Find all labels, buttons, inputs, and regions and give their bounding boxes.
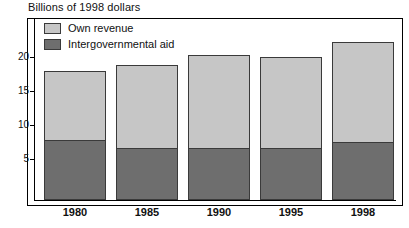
y-tick-label-15: 15 [7,86,29,96]
bar-1985 [116,65,178,200]
chart-legend: Own revenue Intergovernmental aid [44,21,174,53]
bar-1998-own-revenue [333,43,393,143]
bar-1980 [44,71,106,200]
x-axis-line [34,200,396,201]
x-tick-label-1995: 1995 [256,206,326,218]
bar-1990-own-revenue [189,56,249,149]
y-tick-label-20: 20 [7,52,29,62]
x-tick-label-1998: 1998 [328,206,398,218]
y-tick-20 [30,57,35,58]
y-tick-label-10: 10 [7,120,29,130]
bar-1990-intergovernmental-aid [189,148,249,199]
x-tick-label-1980: 1980 [40,206,110,218]
y-tick-label-5: 5 [7,154,29,164]
bar-1995 [260,57,322,200]
legend-item-intergovernmental-aid: Intergovernmental aid [44,37,174,51]
x-tick-label-1985: 1985 [112,206,182,218]
bar-1998-intergovernmental-aid [333,142,393,199]
intergovernmental-aid-swatch [44,39,61,50]
bar-1980-intergovernmental-aid [45,140,105,199]
y-tick-10 [30,125,35,126]
bar-1980-own-revenue [45,72,105,141]
bar-1985-intergovernmental-aid [117,148,177,199]
legend-label-own-revenue: Own revenue [68,22,133,34]
own-revenue-swatch [44,23,61,34]
y-tick-5 [30,159,35,160]
legend-item-own-revenue: Own revenue [44,21,174,35]
bar-1998 [332,42,394,200]
bar-1995-own-revenue [261,58,321,149]
y-axis-labels: 20 15 10 5 [0,0,29,228]
bar-1995-intergovernmental-aid [261,148,321,199]
x-tick-label-1990: 1990 [184,206,254,218]
chart-title: Billions of 1998 dollars [28,1,140,13]
bar-1985-own-revenue [117,66,177,149]
y-tick-15 [30,91,35,92]
legend-label-intergovernmental-aid: Intergovernmental aid [68,38,174,50]
y-axis-line [34,19,35,201]
bar-1990 [188,55,250,200]
chart-container: Billions of 1998 dollars 20 15 10 5 1980… [0,0,409,228]
